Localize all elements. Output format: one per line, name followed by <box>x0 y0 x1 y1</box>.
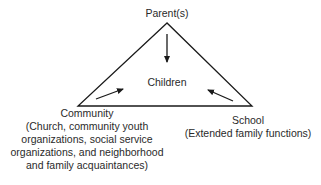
node-community-detail-4: and family acquaintances) <box>2 159 172 172</box>
node-children-label: Children <box>137 76 197 89</box>
node-community-detail-2: organizations, social service <box>2 133 172 146</box>
arrow-community-to-children <box>96 89 123 99</box>
arrow-school-to-children <box>208 90 233 101</box>
node-parents-label: Parent(s) <box>137 7 197 20</box>
node-community-detail-3: organizations, and neighborhood <box>2 146 172 159</box>
node-school-label: School <box>180 114 316 127</box>
node-community-detail-1: (Church, community youth <box>2 120 172 133</box>
triangle-outline <box>78 23 252 106</box>
node-school-detail-1: (Extended family functions) <box>180 127 316 140</box>
node-school: School (Extended family functions) <box>180 114 316 140</box>
node-community: Community (Church, community youth organ… <box>2 107 172 172</box>
node-community-label: Community <box>2 107 172 120</box>
